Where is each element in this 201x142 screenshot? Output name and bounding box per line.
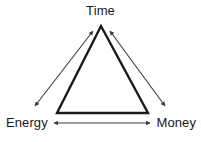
node-label-energy: Energy <box>6 116 48 129</box>
triangle-outline <box>57 26 148 113</box>
node-label-time: Time <box>0 4 201 17</box>
node-label-money: Money <box>156 116 196 129</box>
triangle-diagram: Time Energy Money <box>0 0 201 142</box>
